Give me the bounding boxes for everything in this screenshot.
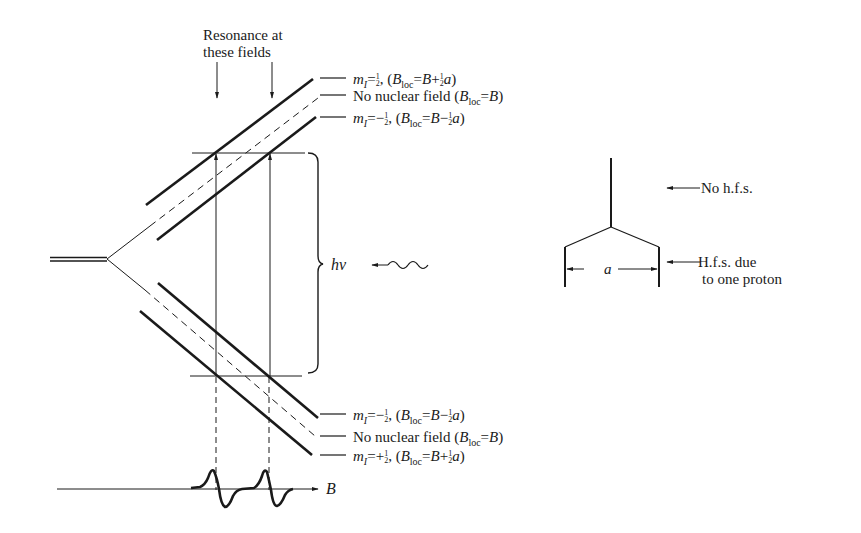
hfs-label-line2: to one proton (702, 271, 782, 287)
splitting-label: a (604, 261, 612, 277)
upper-level-label-mi-minus-half: mI=−12, (Bloc=B−12a) (353, 110, 465, 128)
energy-gap-brace (308, 153, 323, 373)
upper-center-level (107, 98, 318, 259)
lower-level-mi-plus-half (140, 311, 312, 455)
lower-level-label-mi-plus-half: mI=+12, (Bloc=B+12a) (353, 448, 465, 466)
lower-center-level (107, 259, 315, 436)
upper-level-mi-plus-half (146, 79, 313, 205)
resonance-label-line1: Resonance at (203, 27, 283, 43)
lower-level-mi-minus-half (158, 283, 318, 418)
hfs-label-line1: H.f.s. due (698, 254, 756, 270)
field-axis-label: B (326, 481, 336, 497)
upper-level-label-no-field: No nuclear field (Bloc=B) (353, 88, 503, 106)
no-hfs-label: No h.f.s. (701, 180, 753, 196)
lower-level-label-no-field: No nuclear field (Bloc=B) (353, 429, 503, 447)
upper-level-label-mi-plus-half: mI=12, (Bloc=B+12a) (353, 71, 456, 89)
resonance-label-line2: these fields (203, 44, 271, 60)
stick-hfs-diagram (565, 158, 659, 287)
zero-field-level (50, 258, 107, 262)
photon-wave-icon (372, 262, 428, 269)
lower-level-label-mi-minus-half: mI=−12, (Bloc=B−12a) (353, 407, 465, 425)
photon-label: hν (331, 257, 346, 273)
